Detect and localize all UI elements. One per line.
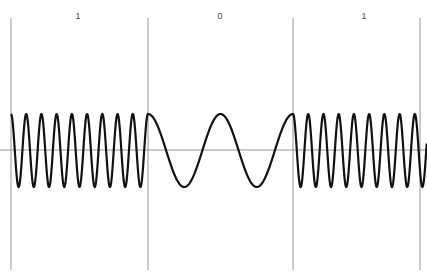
waveform-plot	[0, 0, 427, 276]
bit-label-2: 1	[349, 12, 379, 21]
grid-lines	[11, 18, 420, 270]
bit-label-0: 1	[63, 12, 93, 21]
figure-canvas: 101	[0, 0, 427, 276]
bit-label-1: 0	[205, 12, 235, 21]
carrier-waveform-path	[11, 114, 427, 187]
signal-waveform	[11, 114, 427, 187]
